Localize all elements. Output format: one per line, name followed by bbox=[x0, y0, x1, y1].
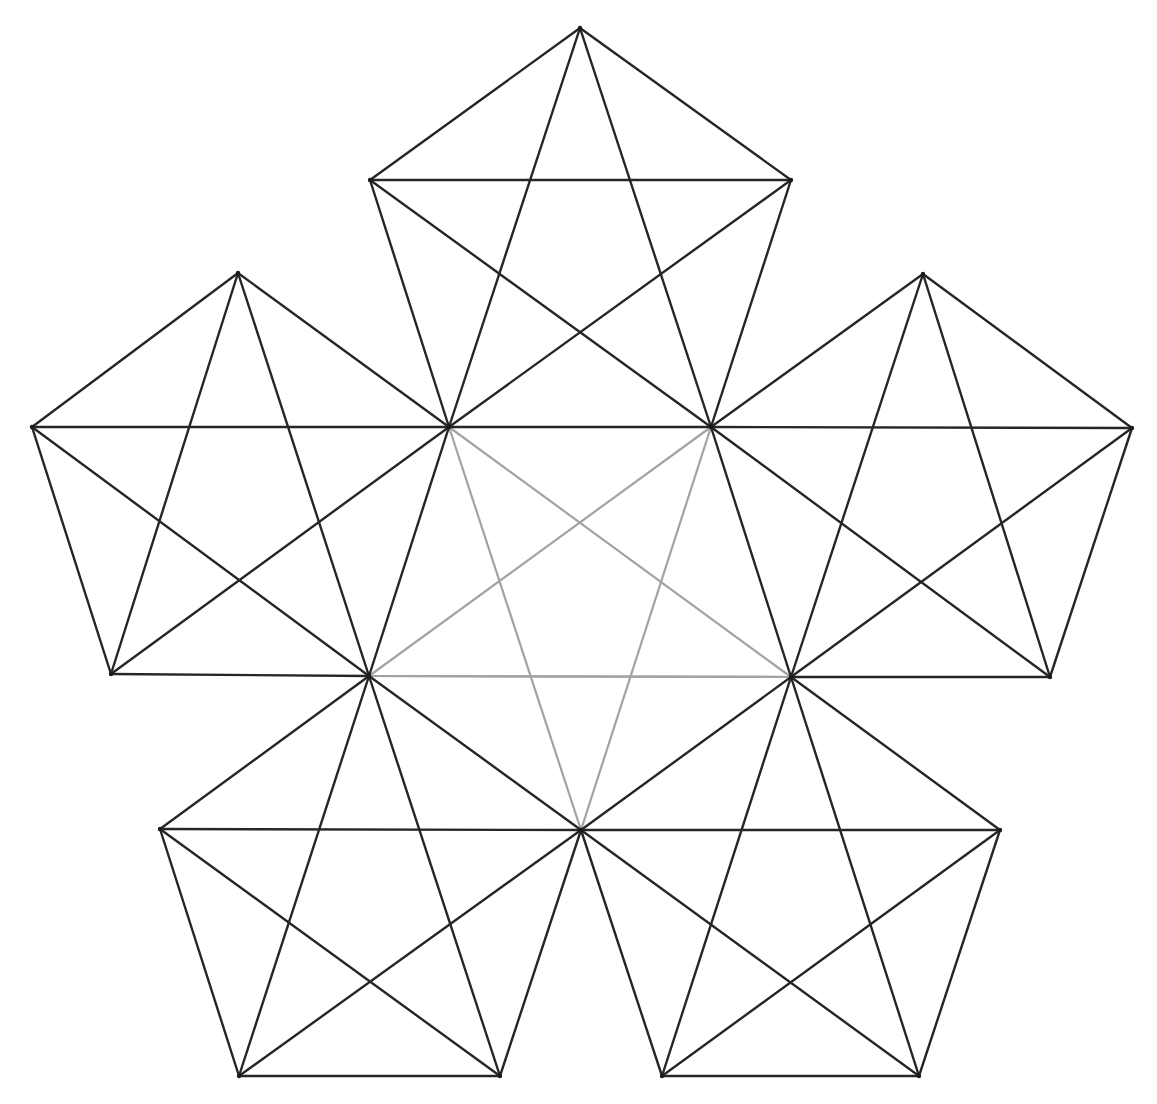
pentagon-edge bbox=[369, 676, 581, 830]
pentagon-edge bbox=[500, 830, 581, 1076]
pentagon-edge bbox=[32, 273, 238, 427]
vertex-dot bbox=[237, 1074, 241, 1078]
pentagon-left bbox=[32, 273, 449, 676]
pentagon-edge bbox=[369, 427, 449, 676]
pentagon-diagonal bbox=[662, 677, 791, 1076]
vertex-dot bbox=[998, 828, 1002, 832]
vertex-dot bbox=[578, 26, 582, 30]
pentagon-edge bbox=[160, 829, 239, 1076]
pentagon-diagonal bbox=[449, 180, 791, 427]
pentagon-diagonal bbox=[238, 273, 369, 676]
vertex-dot bbox=[158, 827, 162, 831]
vertex-dot bbox=[789, 178, 793, 182]
pentagon-diagonal bbox=[711, 427, 1050, 677]
pentagon-net-diagram bbox=[0, 0, 1157, 1104]
center-edge bbox=[369, 676, 791, 677]
pentagon-edge bbox=[919, 830, 1000, 1076]
pentagon-diagonal bbox=[160, 829, 500, 1076]
vertex-dot bbox=[789, 675, 793, 679]
center-diagonal bbox=[581, 427, 711, 830]
pentagon-top bbox=[370, 28, 791, 427]
pentagon-diagonal bbox=[791, 428, 1132, 677]
pentagon-diagonal bbox=[160, 829, 581, 830]
center-diagonal bbox=[449, 427, 581, 830]
vertex-dot bbox=[579, 828, 583, 832]
vertex-dot bbox=[30, 425, 34, 429]
vertex-dot bbox=[1048, 675, 1052, 679]
vertex-dot bbox=[921, 272, 925, 276]
pentagon-edge bbox=[160, 676, 369, 829]
pentagon-diagonal bbox=[111, 273, 238, 674]
pentagon-diagonal bbox=[791, 677, 919, 1076]
pentagon-edge bbox=[581, 677, 791, 830]
pentagon-diagonal bbox=[370, 180, 711, 427]
pentagon-edge bbox=[238, 273, 449, 427]
pentagon-edge bbox=[711, 274, 923, 427]
pentagon-edge bbox=[370, 180, 449, 427]
pentagon-diagonal bbox=[239, 676, 369, 1076]
pentagon-edge bbox=[111, 674, 369, 676]
center-diagonal bbox=[369, 427, 711, 676]
pentagon-edge bbox=[581, 830, 662, 1076]
vertex-dot bbox=[917, 1074, 921, 1078]
pentagon-diagonal bbox=[711, 427, 1132, 428]
pentagon-edge bbox=[580, 28, 791, 180]
pentagon-diagonal bbox=[580, 28, 711, 427]
vertex-dot bbox=[368, 178, 372, 182]
pentagon-edge bbox=[711, 180, 791, 427]
vertices bbox=[30, 26, 1134, 1078]
pentagon-diagonal bbox=[662, 830, 1000, 1076]
pentagon-edge bbox=[791, 677, 1000, 830]
pentagon-diagonal bbox=[791, 274, 923, 677]
outer-pentagons bbox=[32, 28, 1132, 1076]
pentagon-bottom-right bbox=[581, 677, 1000, 1076]
pentagon-edge bbox=[923, 274, 1132, 428]
central-pentagon bbox=[369, 427, 791, 830]
pentagon-edge bbox=[32, 427, 111, 674]
pentagon-diagonal bbox=[449, 28, 580, 427]
pentagon-diagonal bbox=[581, 830, 919, 1076]
pentagon-edge bbox=[1050, 428, 1132, 677]
vertex-dot bbox=[236, 271, 240, 275]
vertex-dot bbox=[709, 425, 713, 429]
vertex-dot bbox=[660, 1074, 664, 1078]
vertex-dot bbox=[447, 425, 451, 429]
vertex-dot bbox=[367, 674, 371, 678]
pentagon-right bbox=[711, 274, 1132, 677]
pentagon-edge bbox=[711, 427, 791, 677]
vertex-dot bbox=[1130, 426, 1134, 430]
pentagon-diagonal bbox=[32, 427, 369, 676]
vertex-dot bbox=[498, 1074, 502, 1078]
pentagon-edge bbox=[370, 28, 580, 180]
pentagon-diagonal bbox=[923, 274, 1050, 677]
vertex-dot bbox=[109, 672, 113, 676]
pentagon-diagonal bbox=[111, 427, 449, 674]
pentagon-diagonal bbox=[369, 676, 500, 1076]
pentagon-diagonal bbox=[239, 830, 581, 1076]
pentagon-bottom-left bbox=[160, 676, 581, 1076]
center-diagonal bbox=[449, 427, 791, 677]
